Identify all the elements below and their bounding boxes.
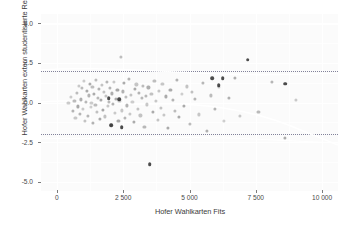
y-tick-label: 0.0 [7, 99, 33, 106]
y-tick-label: 5.0 [7, 20, 33, 27]
data-point [210, 77, 214, 81]
plot-panel [41, 14, 338, 191]
residual-scatter-plot: Hofer Wahlkarten extern studentisierte R… [0, 0, 356, 228]
x-tick-mark [256, 190, 257, 193]
data-point [246, 58, 250, 62]
x-tick-mark [57, 190, 58, 193]
y-tick-label: -5.0 [7, 178, 33, 185]
data-point [109, 124, 113, 128]
x-tick-mark [322, 190, 323, 193]
x-axis-title: Hofer Wahlkarten Fits [41, 207, 339, 216]
data-point [217, 83, 221, 87]
y-tick-label: 2.5 [7, 59, 33, 66]
data-point [117, 97, 121, 101]
data-point [120, 125, 124, 129]
data-point [148, 162, 152, 166]
x-tick-label: 10 000 [302, 194, 342, 202]
x-tick-label: 7 500 [236, 194, 276, 202]
data-point [107, 96, 111, 100]
y-tick-label: -2.5 [7, 139, 33, 146]
x-axis-ticks: 02 5005 0007 50010 000 [0, 194, 356, 206]
x-tick-label: 2 500 [103, 194, 143, 202]
x-tick-mark [123, 190, 124, 193]
x-tick-mark [190, 190, 191, 193]
data-point [221, 77, 225, 81]
data-point [283, 82, 287, 86]
x-tick-label: 0 [37, 194, 77, 202]
x-tick-label: 5 000 [170, 194, 210, 202]
